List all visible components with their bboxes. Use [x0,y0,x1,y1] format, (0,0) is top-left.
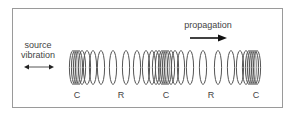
double-arrow-icon [24,65,54,70]
ring [133,51,140,85]
ring [122,51,129,85]
ring [214,51,221,85]
rarefaction-label: R [116,90,126,100]
ring-group [69,51,260,85]
wave-diagram [0,0,291,114]
right-arrow-icon [190,35,227,42]
ring [227,51,234,85]
ring [97,51,104,85]
rarefaction-label: R [206,90,216,100]
propagation-label: propagation [183,20,233,30]
compression-label: C [72,90,82,100]
compression-label: C [161,90,171,100]
ring [109,51,116,85]
compression-label: C [251,90,261,100]
ring [251,51,258,85]
ring [199,51,206,85]
ring [186,51,193,85]
